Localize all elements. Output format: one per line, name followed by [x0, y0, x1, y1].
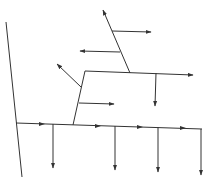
- upper-horizontal-arrow: [85, 71, 193, 75]
- mid-right-branch-arrow: [79, 103, 114, 104]
- flow-arrow-3-icon: [137, 125, 143, 129]
- left-axis-line: [6, 22, 22, 177]
- flow-arrow-1-icon: [39, 122, 45, 126]
- top-left-branch-arrow: [80, 51, 120, 52]
- mid-nw-branch-arrow: [57, 64, 81, 87]
- top-slanted-arrow: [103, 10, 130, 73]
- flow-arrow-2-icon: [95, 124, 101, 128]
- upper-down-branch-arrow: [155, 73, 156, 106]
- connector-lines: [6, 10, 202, 177]
- mid-slanted-line: [73, 71, 85, 125]
- top-right-branch-arrow: [112, 31, 151, 32]
- flow-arrow-4-icon: [180, 126, 186, 130]
- diagram-canvas: [0, 0, 212, 188]
- branching-arrow-diagram: [0, 0, 212, 188]
